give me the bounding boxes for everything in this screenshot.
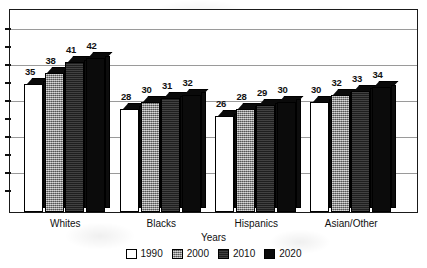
- bar-face: [351, 91, 370, 212]
- bar-face: [86, 58, 105, 212]
- legend-label: 2020: [279, 248, 301, 259]
- bar-value-label: 42: [87, 40, 97, 51]
- bar-2010-hispanics[interactable]: [256, 105, 275, 212]
- bars-container: 35384142283031322628293030323334: [10, 10, 417, 212]
- bar-1990-hispanics[interactable]: [215, 116, 234, 212]
- bar-2010-blacks[interactable]: [161, 98, 180, 212]
- bar-face: [331, 95, 350, 212]
- bar-group: 35384142: [24, 10, 112, 212]
- bar-face: [24, 84, 43, 212]
- bar-face: [45, 73, 64, 212]
- bar-value-label: 28: [237, 91, 247, 102]
- bar-2010-asian-other[interactable]: [351, 91, 370, 212]
- bar-face: [161, 98, 180, 212]
- category-label-blacks: Blacks: [147, 218, 176, 229]
- dark-gray-swatch: [218, 249, 229, 259]
- bar-2000-whites[interactable]: [45, 73, 64, 212]
- legend-label: 2010: [233, 248, 255, 259]
- black-swatch: [264, 249, 275, 259]
- bar-face: [182, 95, 201, 212]
- bar-1990-asian-other[interactable]: [310, 102, 329, 212]
- legend-item-2020[interactable]: 2020: [264, 248, 301, 259]
- bar-value-label: 33: [352, 73, 362, 84]
- bar-value-label: 41: [66, 44, 76, 55]
- bar-side-face: [391, 85, 396, 208]
- bar-face: [215, 116, 234, 212]
- plot-area: 35384142283031322628293030323334: [9, 9, 418, 213]
- bar-2000-blacks[interactable]: [141, 102, 160, 212]
- category-label-hispanics: Hispanics: [235, 218, 278, 229]
- category-label-whites: Whites: [50, 218, 81, 229]
- bar-face: [120, 109, 139, 212]
- x-axis-title: Years: [0, 232, 427, 243]
- legend-item-1990[interactable]: 1990: [126, 248, 163, 259]
- bar-face: [310, 102, 329, 212]
- bar-face: [141, 102, 160, 212]
- chart-legend: 1990200020102020: [0, 248, 427, 259]
- bar-value-label: 26: [216, 98, 226, 109]
- gray-hatched-swatch: [172, 249, 183, 259]
- bar-value-label: 32: [183, 77, 193, 88]
- bar-face: [236, 109, 255, 212]
- bar-value-label: 30: [278, 84, 288, 95]
- bar-1990-whites[interactable]: [24, 84, 43, 212]
- bar-side-face: [296, 99, 301, 207]
- bar-value-label: 30: [142, 84, 152, 95]
- bar-value-label: 35: [25, 66, 35, 77]
- bar-2020-asian-other[interactable]: [372, 87, 391, 212]
- bar-group: 28303132: [120, 10, 208, 212]
- chart-page: 5 35384142283031322628293030323334 White…: [0, 0, 427, 268]
- legend-label: 2000: [187, 248, 209, 259]
- bar-face: [372, 87, 391, 212]
- bar-2000-asian-other[interactable]: [331, 95, 350, 212]
- bar-value-label: 29: [257, 87, 267, 98]
- bar-face: [277, 102, 296, 212]
- legend-label: 1990: [141, 248, 163, 259]
- bar-face: [256, 105, 275, 212]
- legend-item-2000[interactable]: 2000: [172, 248, 209, 259]
- bar-side-face: [105, 56, 110, 208]
- bar-2010-whites[interactable]: [65, 62, 84, 212]
- legend-item-2010[interactable]: 2010: [218, 248, 255, 259]
- category-label-asian-other: Asian/Other: [325, 218, 378, 229]
- bar-value-label: 28: [121, 91, 131, 102]
- bar-group: 26282930: [215, 10, 303, 212]
- bar-side-face: [201, 92, 206, 207]
- bar-2020-whites[interactable]: [86, 58, 105, 212]
- bar-value-label: 34: [373, 69, 383, 80]
- bar-2000-hispanics[interactable]: [236, 109, 255, 212]
- bar-value-label: 31: [162, 80, 172, 91]
- bar-value-label: 38: [46, 55, 56, 66]
- bar-value-label: 32: [332, 77, 342, 88]
- white-swatch: [126, 249, 137, 259]
- bar-1990-blacks[interactable]: [120, 109, 139, 212]
- bar-2020-blacks[interactable]: [182, 95, 201, 212]
- bar-2020-hispanics[interactable]: [277, 102, 296, 212]
- bar-group: 30323334: [310, 10, 398, 212]
- bar-face: [65, 62, 84, 212]
- bar-value-label: 30: [311, 84, 321, 95]
